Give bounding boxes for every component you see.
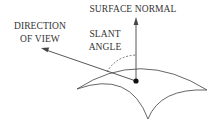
surface-normal-arrowhead [134, 17, 139, 25]
surface-patch [77, 69, 207, 119]
direction-of-view-label-line2: OF VIEW [20, 34, 60, 44]
slant-angle-label-line2: ANGLE [89, 42, 122, 52]
direction-of-view-arrow [41, 48, 136, 81]
surface-normal-arrow [134, 17, 139, 81]
slant-angle-diagram: SURFACE NORMAL DIRECTION OF VIEW SLANT A… [0, 0, 218, 128]
direction-of-view-shaft [46, 50, 136, 81]
surface-point [133, 78, 138, 83]
surface-right-edge [148, 90, 207, 119]
surface-top-edge [77, 69, 207, 90]
direction-of-view-arrowhead [41, 48, 49, 53]
surface-normal-label: SURFACE NORMAL [89, 4, 176, 14]
direction-of-view-label-line1: DIRECTION [14, 21, 66, 31]
slant-angle-label-line1: SLANT [89, 29, 120, 39]
surface-left-edge [77, 84, 148, 119]
